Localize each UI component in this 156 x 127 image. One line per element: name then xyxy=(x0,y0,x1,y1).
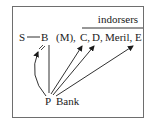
party-b: B xyxy=(41,31,48,43)
party-meril: Meril, xyxy=(105,31,132,43)
p-to-b-arrow-icon xyxy=(34,52,46,96)
party-d: D, xyxy=(92,31,103,43)
party-m: (M), xyxy=(56,31,76,44)
party-p: P xyxy=(45,95,51,107)
p-to-e-arrow-icon xyxy=(56,46,133,96)
p-to-c-arrow-icon xyxy=(51,46,82,94)
party-e: E xyxy=(135,31,142,43)
party-s: S xyxy=(19,31,25,43)
indorsers-label: indorsers xyxy=(98,13,138,25)
party-c: C, xyxy=(80,31,90,43)
bank-label: Bank xyxy=(56,95,80,107)
p-to-d-arrow-icon xyxy=(53,46,94,95)
indorsement-diagram: indorsers S B (M), C, D, Meril, E P Bank xyxy=(0,0,156,127)
